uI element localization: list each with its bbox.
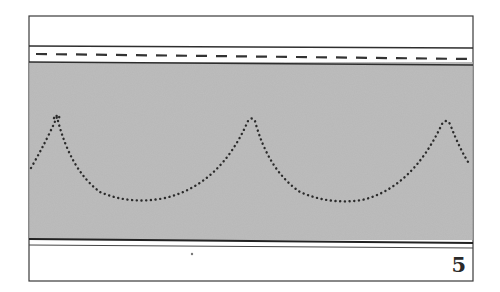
textured-fabric-band	[30, 62, 473, 240]
diagram-canvas	[0, 0, 500, 292]
page-number: 5	[438, 252, 466, 277]
speck	[191, 253, 193, 255]
stitch-diagram: 5	[0, 0, 500, 292]
